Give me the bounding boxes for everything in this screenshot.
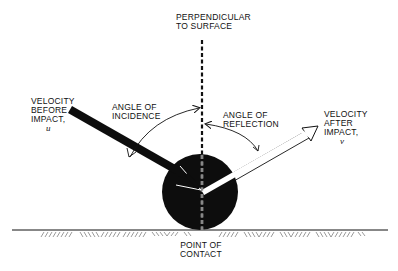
velocity-before-label: VELOCITY BEFORE IMPACT, u xyxy=(31,97,75,133)
perpendicular-label-line2: TO SURFACE xyxy=(176,22,251,31)
velocity-before-line3: IMPACT, xyxy=(31,115,75,124)
angle-incidence-line2: INCIDENCE xyxy=(112,112,161,121)
perpendicular-label: PERPENDICULAR TO SURFACE xyxy=(176,13,251,31)
velocity-after-label: VELOCITY AFTER IMPACT, v xyxy=(324,110,368,146)
ground-hatching xyxy=(41,232,365,237)
angle-reflection-label: ANGLE OF REFLECTION xyxy=(223,111,279,129)
velocity-after-line3: IMPACT, xyxy=(324,128,368,137)
velocity-before-symbol: u xyxy=(46,123,51,133)
point-of-contact-line2: CONTACT xyxy=(180,250,222,259)
angle-reflection-line2: REFLECTION xyxy=(223,120,279,129)
velocity-after-symbol: v xyxy=(340,136,344,146)
velocity-after-arrow xyxy=(203,126,318,193)
point-of-contact-label: POINT OF CONTACT xyxy=(180,241,222,259)
angle-incidence-label: ANGLE OF INCIDENCE xyxy=(112,103,161,121)
